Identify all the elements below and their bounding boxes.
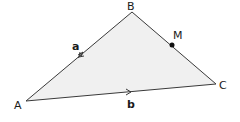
point-label-m: M xyxy=(173,29,183,42)
vector-label-b: b xyxy=(127,98,135,111)
vertex-label-a: A xyxy=(14,99,22,112)
vertex-label-b: B xyxy=(127,0,135,13)
vector-label-a: a xyxy=(72,40,79,53)
vertex-label-c: C xyxy=(219,79,227,92)
triangle-abc xyxy=(26,12,216,101)
triangle-diagram: B A C M a b xyxy=(0,0,240,122)
point-m-dot xyxy=(170,43,175,48)
